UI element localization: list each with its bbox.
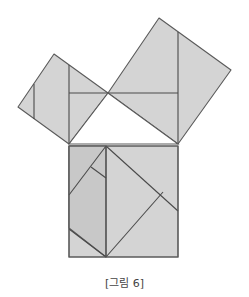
hypotenuse-square bbox=[69, 146, 178, 257]
figure-caption: [그림 6] bbox=[0, 274, 249, 290]
pythagorean-dissection-diagram bbox=[0, 0, 249, 297]
